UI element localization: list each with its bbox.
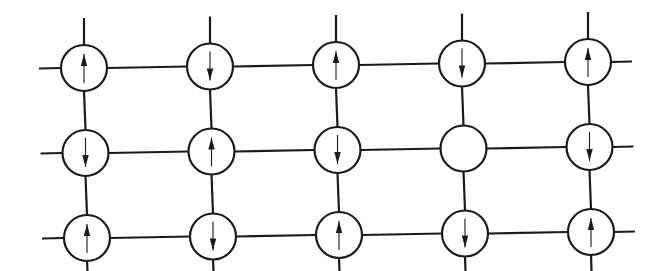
horizontal-bond [109, 152, 189, 154]
vertical-bond [212, 175, 214, 214]
bond-stub-bottom [591, 255, 592, 271]
vertical-bond [84, 91, 86, 130]
lattice-canvas [0, 0, 662, 271]
vertical-bond [588, 85, 590, 124]
horizontal-bond [235, 150, 315, 152]
bond-stub-right [614, 232, 635, 233]
horizontal-bond [485, 62, 565, 64]
vertical-bond [590, 170, 592, 209]
horizontal-bond [361, 149, 441, 151]
bond-stub-bottom [465, 257, 466, 271]
spin-lattice-diagram [0, 0, 662, 271]
horizontal-bond [359, 64, 439, 66]
vertical-bond [210, 90, 212, 129]
bond-stub-left [42, 238, 64, 239]
bond-stub-bottom [87, 261, 88, 271]
vertical-bond [462, 87, 464, 126]
horizontal-bond [362, 234, 442, 236]
horizontal-bond [488, 232, 568, 234]
vertical-bond [86, 176, 88, 215]
vacant-site [441, 126, 487, 172]
horizontal-bond [487, 147, 567, 149]
horizontal-bond [236, 235, 316, 237]
bond-stub-bottom [339, 258, 340, 271]
bond-stub-bottom [213, 260, 214, 271]
bond-stub-right [613, 147, 634, 148]
vertical-bond [336, 88, 338, 127]
horizontal-bond [110, 237, 190, 239]
horizontal-bond [233, 65, 313, 67]
vertical-bond [464, 172, 466, 211]
vertical-bond [338, 173, 340, 212]
bond-stub-left [41, 153, 63, 154]
horizontal-bond [107, 67, 187, 69]
bond-stub-left [39, 68, 61, 69]
bond-stub-right [611, 62, 632, 63]
